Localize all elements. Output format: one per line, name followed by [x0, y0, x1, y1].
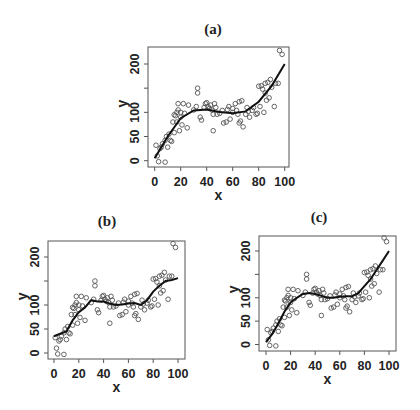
data-point	[304, 277, 309, 282]
data-point	[308, 303, 313, 308]
data-point	[294, 310, 299, 315]
x-axis-label: x	[324, 371, 332, 387]
data-point	[291, 287, 296, 292]
data-point	[267, 343, 272, 348]
data-point	[347, 309, 352, 314]
y-axis-label: y	[225, 285, 241, 293]
data-point	[280, 324, 285, 329]
y-tick-label: 100	[239, 287, 253, 308]
data-point	[361, 296, 366, 301]
x-tick-label: 60	[333, 359, 347, 373]
data-point	[353, 300, 358, 305]
y-tick-label: 50	[239, 314, 253, 328]
data-point	[319, 313, 324, 318]
x-tick-label: 0	[263, 359, 270, 373]
data-point	[286, 287, 291, 292]
data-point	[367, 295, 372, 300]
x-tick-label: 20	[284, 359, 298, 373]
data-point	[335, 302, 340, 307]
scatter-plot-c: 020406080100050100200xy	[0, 0, 420, 410]
x-tick-label: 100	[379, 359, 400, 373]
data-point	[290, 308, 295, 313]
data-point	[276, 329, 281, 334]
y-tick-label: 0	[239, 341, 253, 348]
data-point	[307, 300, 312, 305]
panel-c: (c) 020406080100050100200xy	[0, 0, 420, 410]
data-point	[304, 272, 309, 277]
data-point	[363, 290, 368, 295]
data-point	[287, 313, 292, 318]
y-tick-label: 200	[239, 241, 253, 262]
data-point	[296, 288, 301, 293]
data-point	[384, 239, 389, 244]
x-tick-label: 40	[308, 359, 322, 373]
x-tick-label: 80	[357, 359, 371, 373]
data-point	[274, 344, 279, 349]
data-point	[377, 290, 382, 295]
